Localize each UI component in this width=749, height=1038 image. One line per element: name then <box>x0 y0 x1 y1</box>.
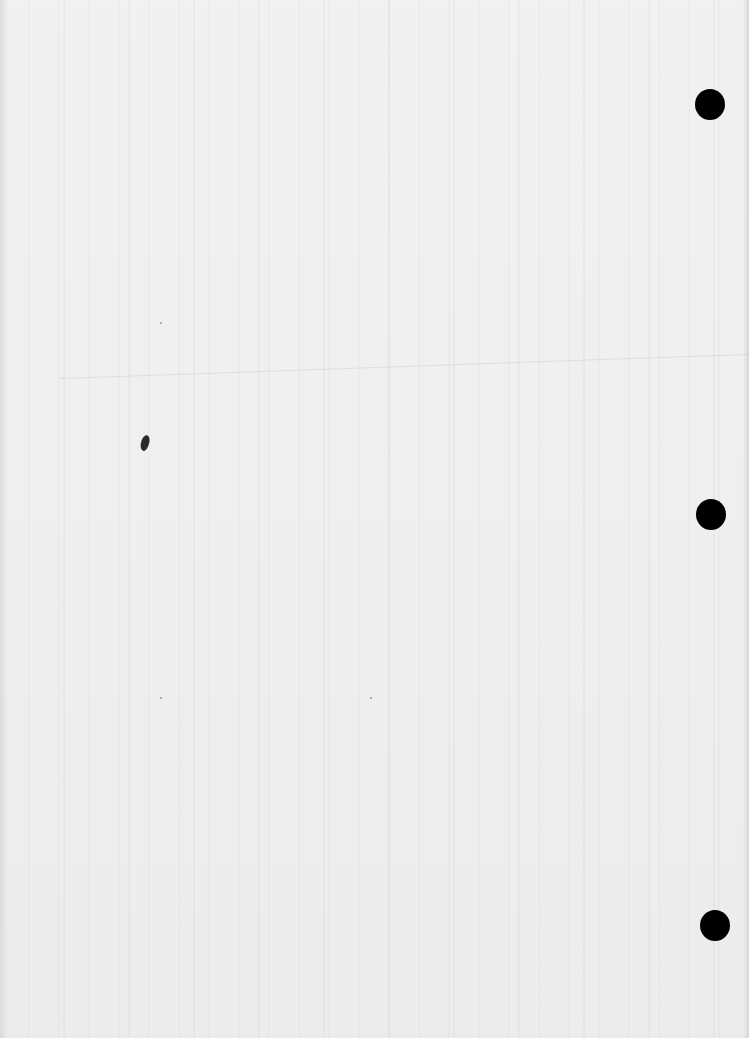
dust-dot <box>160 322 162 324</box>
punch-hole-top <box>695 89 725 120</box>
page-right-edge-shadow <box>743 0 749 1038</box>
dust-dot <box>160 697 162 699</box>
dust-dot <box>370 697 372 699</box>
ink-speck <box>139 434 152 452</box>
punch-hole-middle <box>696 499 726 530</box>
page-left-edge-shadow <box>0 0 8 1038</box>
scanned-page <box>0 0 749 1038</box>
punch-hole-bottom <box>700 910 730 941</box>
scan-crease-line <box>60 354 749 379</box>
